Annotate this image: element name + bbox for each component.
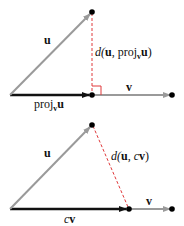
top-u-tip-point: [89, 9, 95, 15]
top-proj-tip-point: [89, 92, 95, 98]
bottom-diagram: u v cv d(u, cv): [10, 122, 175, 226]
top-u-vector: [10, 14, 90, 95]
projection-diagram: u v projvu d(u, projvu) u v cv d(u, cv): [0, 0, 184, 226]
bottom-cv-tip-point: [126, 206, 132, 212]
top-v-tip-point: [169, 92, 175, 98]
bottom-u-label: u: [44, 146, 51, 160]
bottom-distance-label: d(u, cv): [111, 149, 149, 163]
bottom-u-vector: [10, 127, 90, 209]
top-diagram: u v projvu d(u, projvu): [10, 9, 175, 113]
bottom-v-label: v: [146, 194, 152, 208]
bottom-cv-label: cv: [64, 212, 75, 226]
top-u-label: u: [44, 33, 51, 47]
top-distance-label: d(u, projvu): [95, 45, 152, 61]
top-v-label: v: [126, 80, 132, 94]
bottom-distance-line: [93, 126, 128, 207]
top-proj-label: projvu: [34, 97, 64, 113]
bottom-v-tip-point: [169, 206, 175, 212]
bottom-u-tip-point: [89, 122, 95, 128]
